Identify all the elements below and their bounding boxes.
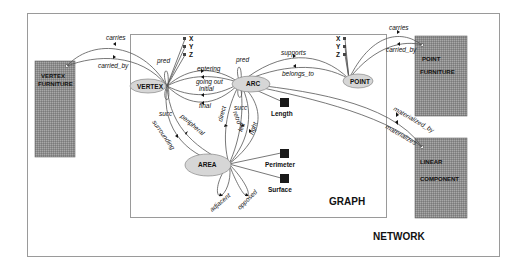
vertex-furniture-box[interactable]: VERTEX FURNITURE: [35, 61, 75, 157]
perimeter-attr-icon: [280, 149, 289, 158]
vertex-furniture-label-1: VERTEX: [41, 73, 65, 79]
label-pf-carried-by: carried_by: [386, 46, 417, 54]
linear-component-label-1: LINEAR: [420, 159, 443, 165]
point-furniture-label-2: FURNITURE: [420, 69, 455, 75]
vertex-z-label: Z: [189, 51, 193, 58]
point-x-attr-icon: [343, 37, 346, 40]
point-y-attr-icon: [343, 45, 346, 48]
label-pf-carries: carries: [389, 24, 409, 31]
point-furniture-box[interactable]: POINT FURNITURE: [415, 36, 467, 116]
point-x-label: X: [336, 35, 341, 42]
point-label: POINT: [350, 78, 370, 85]
label-entering: entering: [197, 65, 221, 73]
node-vertex[interactable]: VERTEX: [130, 79, 166, 93]
linear-component-box[interactable]: LINEAR COMPONENT: [415, 138, 467, 218]
vertex-furniture-label-2: FURNITURE: [38, 81, 73, 87]
point-y-label: Y: [336, 43, 341, 50]
vertex-x-label: X: [189, 35, 194, 42]
label-supports: supports: [281, 49, 307, 57]
label-vertex-pred: pred: [156, 57, 170, 65]
vertex-y-label: Y: [189, 43, 194, 50]
surface-label: Surface: [268, 186, 292, 193]
vertex-y-attr-icon: [183, 45, 186, 48]
surface-attr-icon: [280, 174, 289, 183]
label-vf-carried-by: carried_by: [98, 62, 129, 70]
label-final: final: [199, 102, 211, 109]
arc-label: ARC: [246, 80, 260, 87]
conceptual-diagram: NETWORK GRAPH VERTEX FURNITURE POINT FUR…: [0, 0, 513, 271]
point-z-label: Z: [336, 51, 340, 58]
label-arc-pred: pred: [235, 56, 249, 64]
perimeter-label: Perimeter: [265, 161, 295, 168]
label-initial: initial: [199, 85, 214, 92]
node-area[interactable]: AREA: [185, 154, 231, 176]
graph-label: GRAPH: [329, 196, 365, 207]
vertex-x-attr-icon: [183, 37, 186, 40]
vertex-label: VERTEX: [137, 83, 164, 90]
point-furniture-label-1: POINT: [422, 56, 441, 62]
label-belongs-to: belongs_to: [282, 70, 314, 78]
point-z-attr-icon: [343, 53, 346, 56]
length-label: Length: [271, 110, 293, 118]
vertex-z-attr-icon: [183, 53, 186, 56]
linear-component-label-2: COMPONENT: [420, 176, 459, 182]
label-vf-carries: carries: [106, 34, 126, 41]
area-label: AREA: [198, 161, 217, 168]
node-point[interactable]: POINT: [343, 74, 373, 88]
length-attr-icon: [280, 98, 289, 107]
label-vertex-succ: succ: [159, 110, 173, 117]
network-label: NETWORK: [373, 231, 425, 242]
node-arc[interactable]: ARC: [232, 76, 270, 92]
